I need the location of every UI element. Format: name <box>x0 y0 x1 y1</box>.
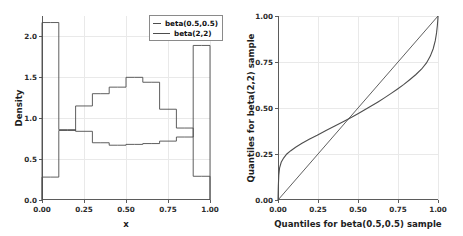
legend-line-icon <box>153 23 161 24</box>
x-tick-mark <box>318 200 319 203</box>
x-tick-label: 0.50 <box>117 205 135 214</box>
x-tick-label: 0.75 <box>159 205 177 214</box>
y-tick-mark <box>39 200 42 201</box>
histogram-y-axis-title: Density <box>14 90 24 127</box>
x-tick-label: 0.25 <box>309 205 327 214</box>
legend-item-beta-05-05[interactable]: beta(0.5,0.5) <box>153 18 218 28</box>
histogram-x-axis-title: x <box>123 219 129 229</box>
x-tick-mark <box>438 200 439 203</box>
y-tick-label: 0.25 <box>255 150 273 159</box>
qq-y-axis-title: Quantiles for beta(2,2) sample <box>246 34 256 183</box>
figure-canvas: 0.000.250.500.751.000.00.51.01.52.0 x De… <box>0 0 463 236</box>
qq-series-layer <box>278 16 438 200</box>
legend-label-beta-2-2: beta(2,2) <box>174 29 212 38</box>
y-tick-label: 0.75 <box>255 58 273 67</box>
qq-reference-line <box>278 16 438 200</box>
y-tick-label: 1.00 <box>255 12 273 21</box>
x-tick-mark <box>210 200 211 203</box>
y-tick-label: 0.5 <box>22 155 37 164</box>
y-tick-label: 0.00 <box>255 196 273 205</box>
x-tick-mark <box>126 200 127 203</box>
x-tick-mark <box>168 200 169 203</box>
y-tick-label: 1.0 <box>22 114 37 123</box>
qq-x-axis-title: Quantiles for beta(0.5,0.5) sample <box>274 219 441 229</box>
y-tick-label: 2.0 <box>22 32 37 41</box>
x-tick-label: 0.00 <box>33 205 51 214</box>
x-tick-label: 1.00 <box>429 205 447 214</box>
x-tick-mark <box>278 200 279 203</box>
legend-label-beta-05-05: beta(0.5,0.5) <box>165 19 218 28</box>
y-tick-label: 0.0 <box>22 196 37 205</box>
x-tick-mark <box>358 200 359 203</box>
y-tick-mark <box>275 200 278 201</box>
histogram-step-beta-2-2 <box>42 77 210 200</box>
x-tick-label: 0.50 <box>349 205 367 214</box>
histogram-series-layer <box>42 16 210 200</box>
x-tick-mark <box>398 200 399 203</box>
histogram-panel: 0.000.250.500.751.000.00.51.01.52.0 x De… <box>0 0 232 236</box>
x-tick-label: 0.75 <box>389 205 407 214</box>
x-tick-label: 0.00 <box>269 205 287 214</box>
histogram-legend[interactable]: beta(0.5,0.5) beta(2,2) <box>149 15 223 41</box>
y-tick-label: 0.50 <box>255 104 273 113</box>
histogram-step-beta-05-05 <box>42 23 210 200</box>
x-tick-mark <box>42 200 43 203</box>
gridline-vertical <box>438 16 439 200</box>
y-tick-label: 1.5 <box>22 73 37 82</box>
x-tick-label: 0.25 <box>75 205 93 214</box>
qq-panel: 0.000.250.500.751.000.000.250.500.751.00… <box>232 0 463 236</box>
x-tick-label: 1.00 <box>201 205 219 214</box>
legend-item-beta-2-2[interactable]: beta(2,2) <box>153 28 218 38</box>
legend-line-icon <box>153 33 170 34</box>
x-tick-mark <box>84 200 85 203</box>
